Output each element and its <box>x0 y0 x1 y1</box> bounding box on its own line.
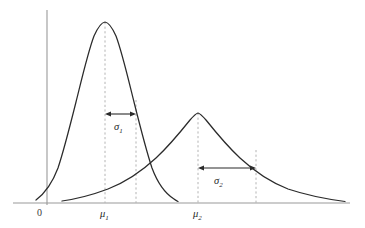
sigma2-arrow-head-left <box>198 166 204 171</box>
sigma2-annotation: σ2 <box>198 166 256 189</box>
sigma2-subscript: 2 <box>219 181 223 189</box>
distribution-curve-1 <box>36 22 178 202</box>
mu2-subscript: 2 <box>198 214 202 222</box>
origin-label: 0 <box>37 207 42 218</box>
sigma1-subscript: 1 <box>119 127 123 135</box>
distribution-curve-2 <box>62 113 345 202</box>
sigma1-arrow-head-left <box>105 112 111 117</box>
sigma1-annotation: σ1 <box>105 112 136 135</box>
sigma2-label: σ2 <box>214 175 223 189</box>
mu2-label: μ2 <box>192 208 202 222</box>
mu1-subscript: 1 <box>105 214 109 222</box>
distribution-diagram: σ1 σ2 0 μ1 μ2 <box>0 0 365 228</box>
sigma1-arrow-head-right <box>130 112 136 117</box>
mu1-label: μ1 <box>99 208 109 222</box>
sigma1-label: σ1 <box>114 121 123 135</box>
